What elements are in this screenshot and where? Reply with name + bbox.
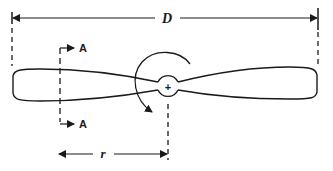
section-top-label: A [79,42,87,54]
diameter-dimension: D [12,8,318,30]
section-bottom-label: A [79,118,87,130]
section-cut-aa: A A [60,42,87,130]
hub-center-mark: + [165,81,171,93]
radius-dimension: r [59,146,167,161]
diameter-label: D [161,11,172,26]
rotation-arrow [135,52,190,112]
right-blade [178,67,317,99]
radius-label: r [100,146,106,161]
propeller: + [13,67,317,101]
propeller-diagram: D + A A r [0,0,333,171]
